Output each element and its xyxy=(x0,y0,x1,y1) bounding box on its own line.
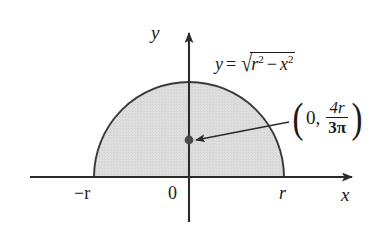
radicand-second-exponent: 2 xyxy=(288,53,294,65)
fraction-numerator: 4r xyxy=(328,99,347,117)
centroid-dot xyxy=(185,136,194,145)
origin-label: 0 xyxy=(168,184,177,202)
semicircle-centroid-figure: y x −r 0 r y=√r2−x2 ( 0, 4r 3π ) xyxy=(0,0,387,234)
radical-expression: √r2−x2 xyxy=(239,52,295,73)
x-tick-label-negative-r: −r xyxy=(74,184,90,202)
radicand-first-exponent: 2 xyxy=(258,53,264,65)
x-tick-label-r: r xyxy=(279,184,286,202)
y-axis-label: y xyxy=(151,23,159,42)
centroid-y-fraction: 4r 3π xyxy=(324,99,350,136)
curve-equation: y=√r2−x2 xyxy=(215,52,295,73)
equation-equals: = xyxy=(223,54,239,74)
radicand: r2−x2 xyxy=(250,52,295,73)
fraction-denominator: 3π xyxy=(326,118,348,136)
centroid-x-value: 0, xyxy=(305,108,324,127)
x-axis-label: x xyxy=(341,185,349,204)
radical-sign-icon: √ xyxy=(241,51,252,75)
centroid-coordinate-label: ( 0, 4r 3π ) xyxy=(291,99,364,136)
equation-lhs: y xyxy=(215,54,223,74)
radicand-second-base: x xyxy=(280,54,288,74)
radicand-operator: − xyxy=(264,54,280,74)
